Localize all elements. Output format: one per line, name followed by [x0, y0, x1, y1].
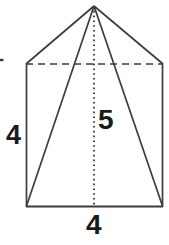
height-label-left: 4 [6, 122, 21, 149]
geometry-diagram-svg [0, 0, 169, 245]
base-length-label-bottom: 4 [86, 211, 102, 239]
geometry-figure: 4 5 4 [0, 0, 169, 245]
apex-to-bottom-left-edge [27, 6, 95, 206]
slant-height-label-center: 5 [98, 106, 114, 134]
